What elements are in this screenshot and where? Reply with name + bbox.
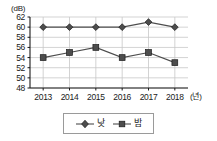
legend-label-night: 밤	[134, 119, 142, 128]
series-line-square	[43, 47, 175, 62]
y-tick-label: 56	[9, 42, 25, 52]
y-tick-label: 52	[9, 63, 25, 73]
data-point-square	[40, 55, 46, 61]
data-series-layer	[40, 19, 178, 66]
data-point-square	[146, 50, 152, 56]
legend-item-day: 낮	[75, 119, 105, 129]
data-point-diamond	[66, 24, 73, 31]
series-line-diamond	[43, 22, 175, 27]
legend-item-night: 밤	[112, 119, 142, 129]
data-point-diamond	[40, 24, 47, 31]
y-tick-label: 54	[9, 53, 25, 63]
diamond-marker-icon	[75, 119, 95, 129]
square-marker-icon	[112, 119, 132, 129]
y-tick-label: 50	[9, 73, 25, 83]
y-tick-label: 58	[9, 32, 25, 42]
data-point-diamond	[92, 24, 99, 31]
x-tick-label: 2018	[161, 92, 189, 102]
noise-level-line-chart: (dB) (년) 4850525456586062 20132014201520…	[0, 0, 217, 141]
data-point-square	[172, 60, 178, 66]
x-tick-label: 2014	[56, 92, 84, 102]
data-point-square	[119, 55, 125, 61]
y-tick-label: 48	[9, 83, 25, 93]
chart-legend: 낮 밤	[63, 113, 154, 134]
data-point-square	[93, 45, 99, 51]
data-point-diamond	[145, 19, 152, 26]
data-point-diamond	[119, 24, 126, 31]
data-point-diamond	[171, 24, 178, 31]
x-tick-label: 2017	[135, 92, 163, 102]
x-tick-label: 2015	[82, 92, 110, 102]
y-tick-label: 62	[9, 12, 25, 22]
plot-border	[28, 17, 189, 91]
y-tick-label: 60	[9, 22, 25, 32]
x-tick-label: 2016	[108, 92, 136, 102]
data-point-square	[67, 50, 73, 56]
x-tick-label: 2013	[29, 92, 57, 102]
legend-label-day: 낮	[97, 119, 105, 128]
